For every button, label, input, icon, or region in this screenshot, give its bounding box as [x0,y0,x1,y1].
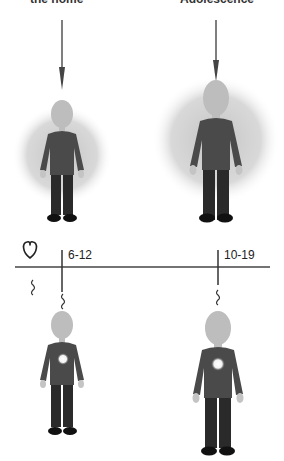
age-range-label-right: 10-19 [224,248,255,262]
squiggle-icon [32,280,35,295]
diagram-canvas [0,0,284,461]
heart-glow-icon [211,357,225,371]
heart-glow-icon [57,353,69,365]
adolescent-figure-bottom [193,311,244,456]
age-range-label-left: 6-12 [68,248,92,262]
child-figure-bottom [40,311,84,435]
squiggle-icon [217,290,220,305]
squiggle-icon [62,294,65,309]
arrow-down-icon [59,20,65,90]
arrow-down-icon [213,20,219,82]
heart-icon [24,242,37,258]
